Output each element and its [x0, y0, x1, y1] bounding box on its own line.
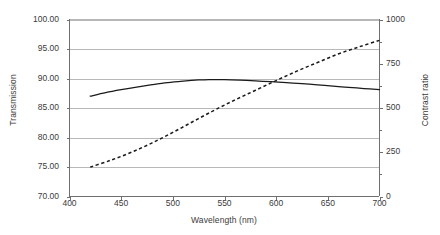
chart-figure: 70.0075.0080.0085.0090.0095.00100.000250…	[0, 0, 440, 235]
y-axis-left-title: Transmission	[8, 60, 18, 140]
y-axis-right-title: Contrast ratio	[420, 60, 430, 140]
y-axis-left-tick-label: 75.00	[0, 161, 59, 171]
y-axis-left-tick-label: 100.00	[0, 14, 59, 24]
tick-label-layer: 70.0075.0080.0085.0090.0095.00100.000250…	[0, 0, 440, 235]
x-axis-tick-label: 600	[256, 198, 296, 208]
x-axis-tick-label: 650	[308, 198, 348, 208]
x-axis-tick-label: 400	[50, 198, 90, 208]
x-axis-tick-label: 700	[360, 198, 400, 208]
x-axis-title: Wavelength (nm)	[69, 215, 379, 225]
y-axis-left-tick-label: 95.00	[0, 43, 59, 53]
x-axis-tick-label: 450	[101, 198, 141, 208]
y-axis-right-tick-label: 250	[386, 146, 436, 156]
x-axis-tick-label: 550	[205, 198, 245, 208]
x-axis-tick-label: 500	[153, 198, 193, 208]
y-axis-right-tick-label: 1000	[386, 14, 436, 24]
